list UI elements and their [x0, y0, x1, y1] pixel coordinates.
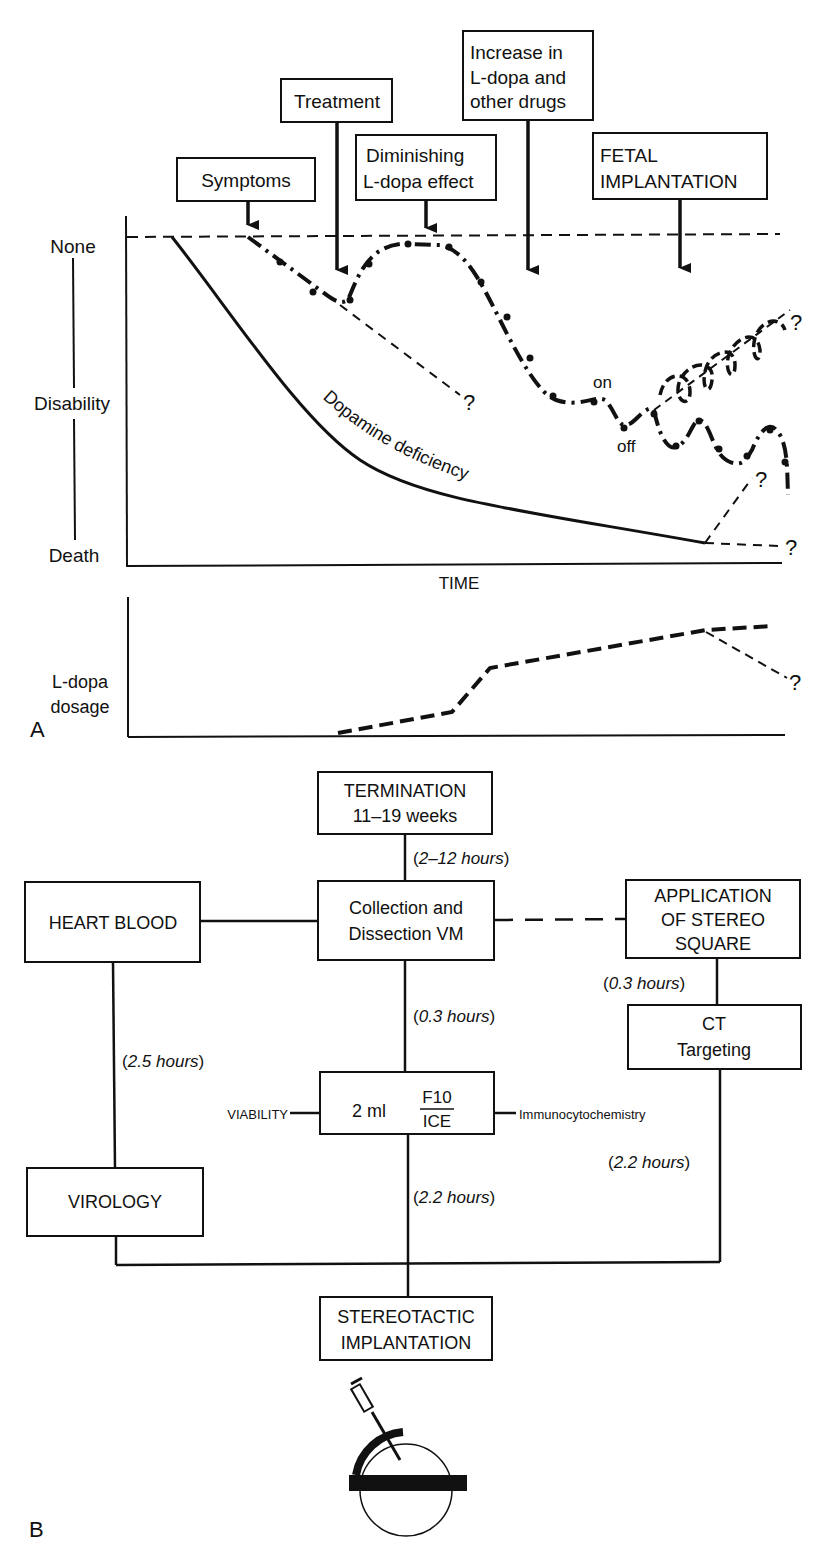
svg-text:VIROLOGY: VIROLOGY — [68, 1192, 162, 1212]
virology-box: VIROLOGY — [27, 1168, 203, 1236]
heart-blood-box: HEART BLOOD — [25, 882, 200, 962]
svg-text:11–19 weeks: 11–19 weeks — [353, 806, 458, 826]
svg-text:TERMINATION: TERMINATION — [344, 781, 467, 801]
duration-2-5: (2.5 hours) — [122, 1052, 204, 1071]
svg-text:HEART BLOOD: HEART BLOOD — [49, 913, 177, 933]
duration-2-2-medium: (2.2 hours) — [413, 1188, 495, 1207]
fetal-implantation-box: FETAL IMPLANTATION — [593, 133, 767, 199]
svg-text:CT: CT — [702, 1014, 726, 1034]
panel-a: Symptoms Treatment Diminishing L-dopa ef… — [30, 31, 802, 742]
svg-text:Symptoms: Symptoms — [201, 170, 291, 191]
duration-2-2-ct: (2.2 hours) — [608, 1153, 690, 1172]
svg-text:STEREOTACTIC: STEREOTACTIC — [337, 1307, 475, 1327]
svg-text:other drugs: other drugs — [470, 91, 566, 112]
dopamine-deficiency-curve — [172, 237, 705, 543]
treatment-box: Treatment — [281, 79, 392, 122]
diminishing-box: Diminishing L-dopa effect — [356, 135, 496, 200]
svg-text:FETAL: FETAL — [600, 145, 658, 166]
panel-b: TERMINATION 11–19 weeks (2–12 hours) Col… — [25, 772, 801, 1542]
svg-text:ICE: ICE — [423, 1112, 451, 1131]
svg-text:Targeting: Targeting — [677, 1040, 751, 1060]
svg-text:APPLICATION: APPLICATION — [654, 886, 772, 906]
svg-text:Diminishing: Diminishing — [366, 145, 464, 166]
svg-text:L-dopa and: L-dopa and — [470, 67, 566, 88]
svg-text:?: ? — [789, 670, 801, 695]
svg-text:Collection and: Collection and — [349, 898, 463, 918]
svg-text:OF STEREO: OF STEREO — [661, 910, 765, 930]
symptoms-box: Symptoms — [177, 158, 315, 201]
disability-curve-dots — [277, 241, 789, 466]
x-axis — [127, 563, 782, 566]
off-label: off — [617, 437, 636, 456]
svg-text:L-dopa effect: L-dopa effect — [363, 171, 474, 192]
increase-box: Increase in L-dopa and other drugs — [463, 31, 593, 120]
figure: Symptoms Treatment Diminishing L-dopa ef… — [0, 0, 828, 1562]
immunocytochemistry-label: Immunocytochemistry — [519, 1107, 646, 1122]
dosage-x-axis — [128, 735, 785, 737]
y-axis — [126, 216, 127, 567]
application-stereo-square-box: APPLICATION OF STEREO SQUARE — [626, 880, 800, 958]
svg-text:2 ml: 2 ml — [352, 1101, 386, 1121]
duration-2-12: (2–12 hours) — [413, 849, 509, 868]
y-label-disability: Disability — [34, 393, 111, 414]
x-label-time: TIME — [439, 574, 480, 593]
collection-dissection-box: Collection and Dissection VM — [318, 881, 494, 960]
svg-text:L-dopa: L-dopa — [52, 672, 109, 692]
svg-text:SQUARE: SQUARE — [675, 934, 751, 954]
y-label-none: None — [50, 236, 95, 257]
fetal-implant-outcome-loops — [660, 321, 785, 401]
medium-box: 2 ml F10 ICE — [320, 1072, 494, 1134]
svg-text:IMPLANTATION: IMPLANTATION — [600, 171, 738, 192]
ct-targeting-box: CT Targeting — [628, 1005, 801, 1069]
svg-text:?: ? — [785, 535, 797, 560]
svg-text:?: ? — [790, 310, 802, 335]
duration-0-3-medium: (0.3 hours) — [413, 1007, 495, 1026]
svg-text:IMPLANTATION: IMPLANTATION — [341, 1333, 471, 1353]
termination-box: TERMINATION 11–19 weeks — [318, 772, 492, 834]
panel-b-label: B — [29, 1517, 44, 1542]
y-label-death: Death — [49, 545, 100, 566]
svg-text:Treatment: Treatment — [294, 91, 381, 112]
svg-text:dosage: dosage — [50, 697, 109, 717]
svg-text:?: ? — [463, 390, 475, 415]
svg-text:F10: F10 — [422, 1088, 451, 1107]
disability-curve — [248, 237, 652, 425]
stereotactic-head-icon — [349, 1378, 467, 1536]
dopamine-deficiency-label: Dopamine deficiency — [319, 386, 471, 484]
dosage-curve — [338, 626, 773, 733]
baseline-none — [127, 234, 780, 237]
duration-0-3-ct: (0.3 hours) — [603, 974, 685, 993]
on-label: on — [593, 373, 612, 392]
stereotactic-implantation-box: STEREOTACTIC IMPLANTATION — [320, 1297, 492, 1360]
svg-text:Dissection VM: Dissection VM — [348, 924, 463, 944]
viability-label: VIABILITY — [227, 1107, 288, 1122]
svg-text:?: ? — [755, 467, 767, 492]
svg-text:Increase in: Increase in — [470, 42, 563, 63]
panel-a-label: A — [30, 717, 45, 742]
